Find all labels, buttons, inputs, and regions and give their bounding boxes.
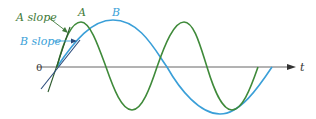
origin-label: 0 xyxy=(36,62,42,73)
label-b: B xyxy=(111,6,120,19)
label-a-slope: A slope xyxy=(15,11,57,24)
label-a: A xyxy=(77,6,86,19)
label-b-slope: B slope xyxy=(19,35,61,48)
t-axis-label: t xyxy=(300,61,305,74)
a-slope-arrow-icon xyxy=(62,27,68,33)
curve-a xyxy=(57,22,258,110)
sine-diagram: A B A slope B slope 0 t xyxy=(0,0,316,119)
axis-arrow-icon xyxy=(287,64,296,70)
